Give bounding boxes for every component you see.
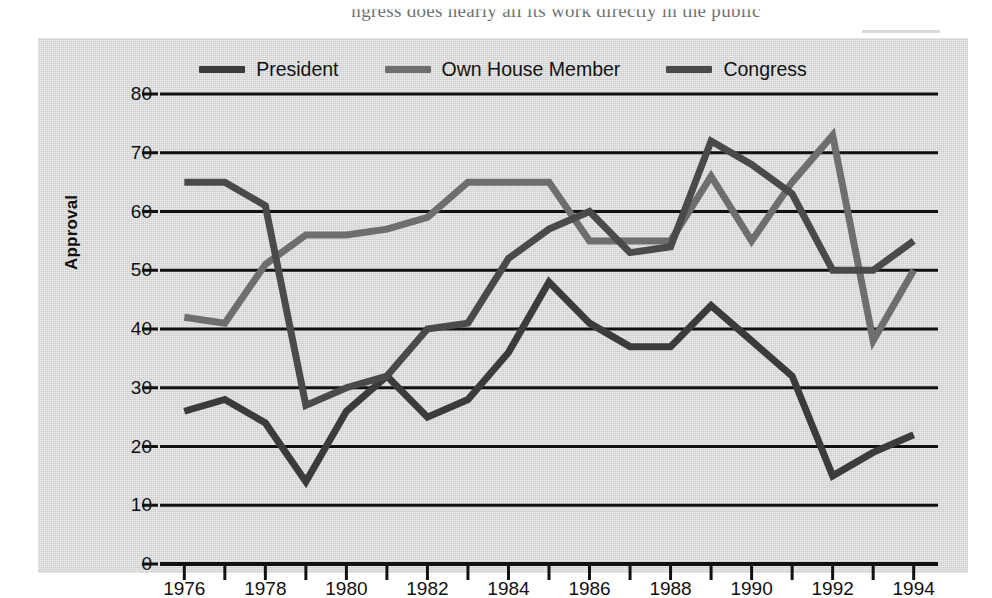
y-tick-label-0: 0 (141, 553, 152, 575)
plot-svg (160, 94, 938, 564)
x-tick-label-1980: 1980 (325, 578, 367, 598)
legend-swatch-icon (199, 66, 245, 73)
x-tick-label-1984: 1984 (487, 578, 529, 598)
series-line-president (184, 282, 913, 482)
y-tick-label-80: 80 (131, 83, 152, 105)
x-tick-label-1978: 1978 (244, 578, 286, 598)
book-page-text-line: ngress does nearly all its work directly… (351, 0, 760, 22)
legend-item-congress[interactable]: Congress (666, 58, 806, 81)
x-tick-label-1988: 1988 (649, 578, 691, 598)
y-tick-label-70: 70 (131, 142, 152, 164)
x-tick-label-1986: 1986 (568, 578, 610, 598)
y-tick-label-60: 60 (131, 201, 152, 223)
y-tick-label-20: 20 (131, 436, 152, 458)
x-tick-label-1990: 1990 (730, 578, 772, 598)
x-tick-label-1992: 1992 (812, 578, 854, 598)
legend-label: President (256, 58, 338, 81)
x-tick-label-1994: 1994 (893, 578, 935, 598)
legend-swatch-icon (666, 66, 712, 73)
chart-figure: PresidentOwn House MemberCongress Approv… (38, 38, 968, 573)
y-tick-label-40: 40 (131, 318, 152, 340)
y-axis-ticks: 01020304050607080 (86, 94, 152, 564)
y-tick-label-30: 30 (131, 377, 152, 399)
book-page-text: ngress does nearly all its work directly… (0, 0, 992, 26)
legend-swatch-icon (385, 66, 431, 73)
x-tick-label-1982: 1982 (406, 578, 448, 598)
y-tick-label-50: 50 (131, 259, 152, 281)
x-axis-ticks: 1976197819801982198419861988199019921994 (160, 568, 938, 598)
legend-label: Own House Member (442, 58, 621, 81)
legend-item-own-house-member[interactable]: Own House Member (385, 58, 621, 81)
y-tick-label-10: 10 (131, 494, 152, 516)
series-line-own-house-member (184, 135, 913, 341)
scan-speck (862, 30, 940, 33)
chart-legend: PresidentOwn House MemberCongress (38, 56, 968, 82)
data-series (184, 135, 913, 482)
y-axis-label: Approval (62, 195, 82, 270)
legend-item-president[interactable]: President (199, 58, 338, 81)
plot-area (160, 94, 938, 564)
x-tick-label-1976: 1976 (163, 578, 205, 598)
legend-label: Congress (723, 58, 806, 81)
